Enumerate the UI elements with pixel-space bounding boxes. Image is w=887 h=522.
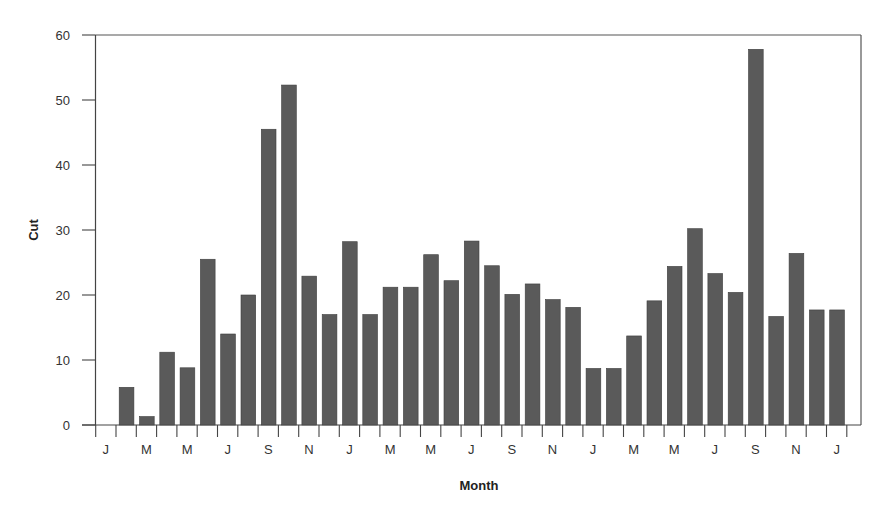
bar bbox=[221, 334, 236, 425]
bar bbox=[403, 287, 418, 425]
bar bbox=[444, 281, 459, 425]
bar bbox=[566, 307, 581, 425]
bar bbox=[424, 255, 439, 425]
x-tick-label: M bbox=[669, 442, 680, 457]
bar bbox=[830, 310, 845, 425]
bar bbox=[343, 242, 358, 425]
bar bbox=[627, 336, 642, 425]
x-tick-label: M bbox=[141, 442, 152, 457]
bar bbox=[464, 241, 479, 425]
bar bbox=[525, 284, 540, 425]
bar bbox=[160, 352, 175, 425]
x-axis-title: Month bbox=[460, 478, 499, 493]
bar bbox=[505, 294, 520, 425]
x-tick-label: J bbox=[833, 442, 840, 457]
bar bbox=[261, 129, 276, 425]
bar bbox=[809, 310, 824, 425]
x-tick-label: J bbox=[468, 442, 475, 457]
bar bbox=[383, 287, 398, 425]
x-tick-label: M bbox=[182, 442, 193, 457]
y-tick-label: 30 bbox=[56, 223, 70, 238]
bar bbox=[363, 315, 378, 426]
x-tick-label: M bbox=[425, 442, 436, 457]
bar bbox=[586, 368, 601, 425]
y-tick-label: 0 bbox=[63, 418, 70, 433]
x-tick-label: J bbox=[712, 442, 719, 457]
bar bbox=[789, 253, 804, 425]
bar bbox=[728, 292, 743, 425]
bars bbox=[119, 49, 844, 425]
y-tick-label: 60 bbox=[56, 28, 70, 43]
x-tick-label: N bbox=[304, 442, 313, 457]
bar bbox=[647, 301, 662, 425]
bar bbox=[180, 368, 195, 425]
bar bbox=[200, 259, 215, 425]
x-tick-label: S bbox=[508, 442, 517, 457]
x-tick-label: J bbox=[590, 442, 597, 457]
bar bbox=[241, 295, 256, 425]
x-tick-label: N bbox=[548, 442, 557, 457]
y-tick-label: 40 bbox=[56, 158, 70, 173]
bar bbox=[119, 387, 134, 425]
bar bbox=[322, 315, 337, 426]
bar bbox=[302, 276, 317, 425]
x-tick-label: J bbox=[346, 442, 353, 457]
y-axis-title: Cut bbox=[26, 219, 41, 241]
x-tick-label: S bbox=[751, 442, 760, 457]
bar bbox=[688, 229, 703, 425]
x-axis: JMMJSNJMMJSNJMMJSNJ bbox=[96, 425, 847, 457]
x-tick-label: M bbox=[628, 442, 639, 457]
x-tick-label: J bbox=[224, 442, 231, 457]
bar bbox=[485, 266, 500, 425]
y-tick-label: 50 bbox=[56, 93, 70, 108]
bar bbox=[282, 85, 297, 425]
y-tick-label: 20 bbox=[56, 288, 70, 303]
bar-chart: 0102030405060 JMMJSNJMMJSNJMMJSNJ Cut Mo… bbox=[0, 0, 887, 522]
y-tick-label: 10 bbox=[56, 353, 70, 368]
x-tick-label: M bbox=[385, 442, 396, 457]
x-tick-label: J bbox=[103, 442, 110, 457]
x-tick-label: S bbox=[264, 442, 273, 457]
bar bbox=[140, 417, 155, 425]
bar bbox=[546, 300, 561, 425]
bar bbox=[749, 49, 764, 425]
bar bbox=[606, 368, 621, 425]
x-tick-label: N bbox=[791, 442, 800, 457]
y-axis: 0102030405060 bbox=[56, 28, 96, 433]
bar bbox=[667, 266, 682, 425]
bar bbox=[708, 274, 723, 425]
bar bbox=[769, 316, 784, 425]
